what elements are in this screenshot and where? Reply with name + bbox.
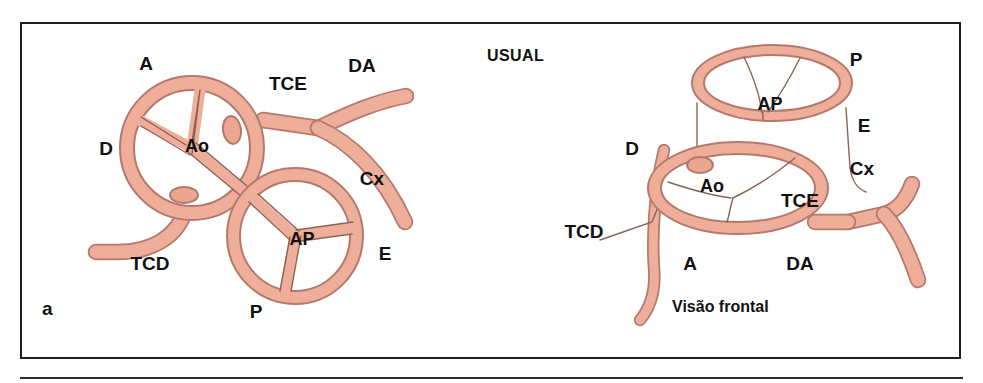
label-ap: AP	[757, 94, 782, 114]
label-tcd: TCD	[564, 221, 603, 242]
frontal-view-caption: Visão frontal	[672, 298, 769, 316]
label-p-pulmonary: P	[850, 49, 863, 70]
label-da: DA	[786, 253, 814, 274]
panel-label-a: a	[42, 298, 53, 320]
label-e-left: E	[858, 115, 871, 136]
label-ao: Ao	[700, 176, 724, 196]
label-a-anterior: A	[683, 253, 697, 274]
label-d-right: D	[625, 138, 639, 159]
label-cx: Cx	[850, 158, 875, 179]
figure-root: A TCE DA D Ao Cx AP E TCD P	[0, 0, 983, 383]
usual-title-label: USUAL	[487, 47, 544, 65]
coronary-ostium-frontal	[687, 157, 713, 173]
label-tce: TCE	[781, 190, 819, 211]
bottom-divider-rule	[20, 377, 963, 379]
